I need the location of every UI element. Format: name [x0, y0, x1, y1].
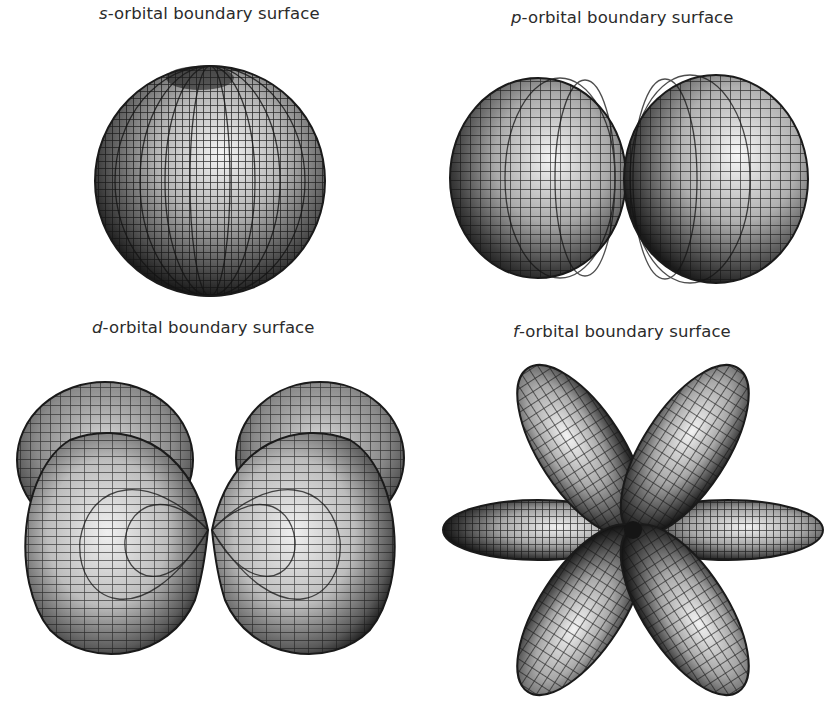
orbital-figure [0, 0, 838, 707]
s-orbital-caption-text: -orbital boundary surface [108, 4, 320, 23]
f-orbital-caption-text: -orbital boundary surface [519, 322, 731, 341]
d-orbital-symbol: d [92, 318, 103, 337]
d-orbital-caption-text: -orbital boundary surface [103, 318, 315, 337]
d-orbital-lobes [17, 382, 404, 654]
p-orbital-caption: p-orbital boundary surface [511, 8, 734, 27]
p-orbital-caption-text: -orbital boundary surface [522, 8, 734, 27]
p-orbital-dumbbell [450, 75, 808, 283]
d-orbital-caption: d-orbital boundary surface [92, 318, 315, 337]
f-orbital-caption: f-orbital boundary surface [513, 322, 731, 341]
f-orbital-petals [443, 345, 823, 707]
s-orbital-symbol: s [99, 4, 108, 23]
s-orbital-caption: s-orbital boundary surface [99, 4, 320, 23]
p-orbital-symbol: p [511, 8, 522, 27]
s-orbital-sphere [95, 66, 325, 296]
